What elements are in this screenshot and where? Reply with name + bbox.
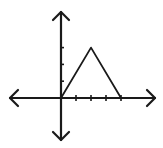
tick-marks — [60, 48, 121, 101]
triangle-graph — [61, 48, 121, 98]
coordinate-plane — [0, 0, 163, 148]
axes — [10, 12, 155, 140]
